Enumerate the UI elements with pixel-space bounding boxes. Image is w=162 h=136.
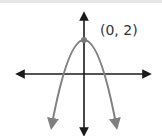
- vertex-point: [81, 37, 87, 43]
- graph-canvas: (0, 2): [0, 0, 162, 136]
- parabola-left-arm-arrow: [52, 118, 53, 124]
- vertex-label: (0, 2): [100, 22, 138, 38]
